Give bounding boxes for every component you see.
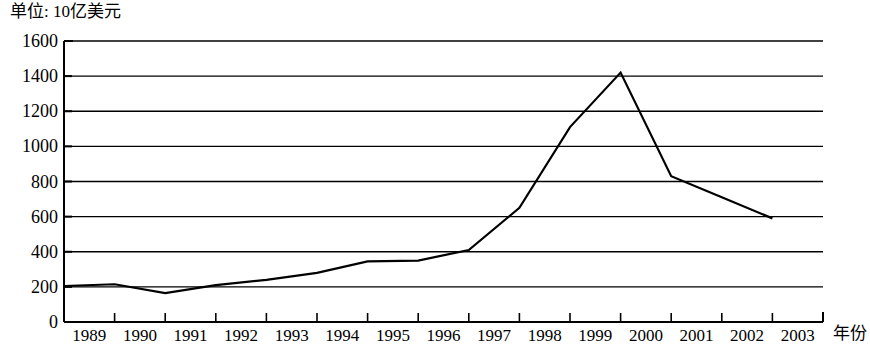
chart-plot-area — [0, 0, 870, 351]
x-axis-tick-label: 1997 — [477, 327, 511, 345]
x-axis-tick-label: 1998 — [528, 327, 562, 345]
x-axis-tick-label: 1995 — [376, 327, 410, 345]
x-axis-tick-label: 2000 — [629, 327, 663, 345]
x-axis-tick-label: 1990 — [123, 327, 157, 345]
x-axis-tick-label: 1993 — [275, 327, 309, 345]
line-chart: 单位: 10亿美元 02004006008001000120014001600 … — [0, 0, 870, 351]
x-axis-tick-label: 2002 — [730, 327, 764, 345]
x-axis-title: 年份 — [833, 325, 867, 343]
x-axis-tick-label: 1999 — [578, 327, 612, 345]
data-series-line — [64, 73, 772, 293]
x-axis-tick-label: 2003 — [781, 327, 815, 345]
x-axis-tick-label: 1996 — [427, 327, 461, 345]
x-axis-tick-label: 1991 — [174, 327, 208, 345]
x-axis-tick-label: 1989 — [72, 327, 106, 345]
x-axis-tick-label: 1992 — [224, 327, 258, 345]
gridlines — [64, 41, 823, 287]
x-axis-tick-label: 1994 — [325, 327, 359, 345]
x-axis-tick-label: 2001 — [680, 327, 714, 345]
